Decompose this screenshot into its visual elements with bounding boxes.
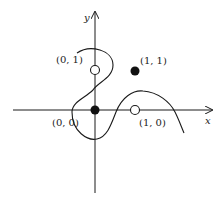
- point-label-1-1: (1, 1): [140, 55, 167, 67]
- point-open-0-1: [91, 66, 100, 75]
- point-label-0-0: (0, 0): [52, 117, 79, 129]
- point-label-1-0: (1, 0): [139, 117, 166, 129]
- coordinate-diagram: [0, 0, 222, 202]
- curve: [72, 49, 184, 140]
- point-label-0-1: (0, 1): [56, 54, 83, 66]
- x-axis-label: x: [205, 115, 211, 127]
- point-open-1-0: [131, 106, 140, 115]
- point-filled-0-0: [91, 106, 100, 115]
- y-axis-label: y: [84, 12, 90, 24]
- point-filled-1-1: [131, 67, 140, 76]
